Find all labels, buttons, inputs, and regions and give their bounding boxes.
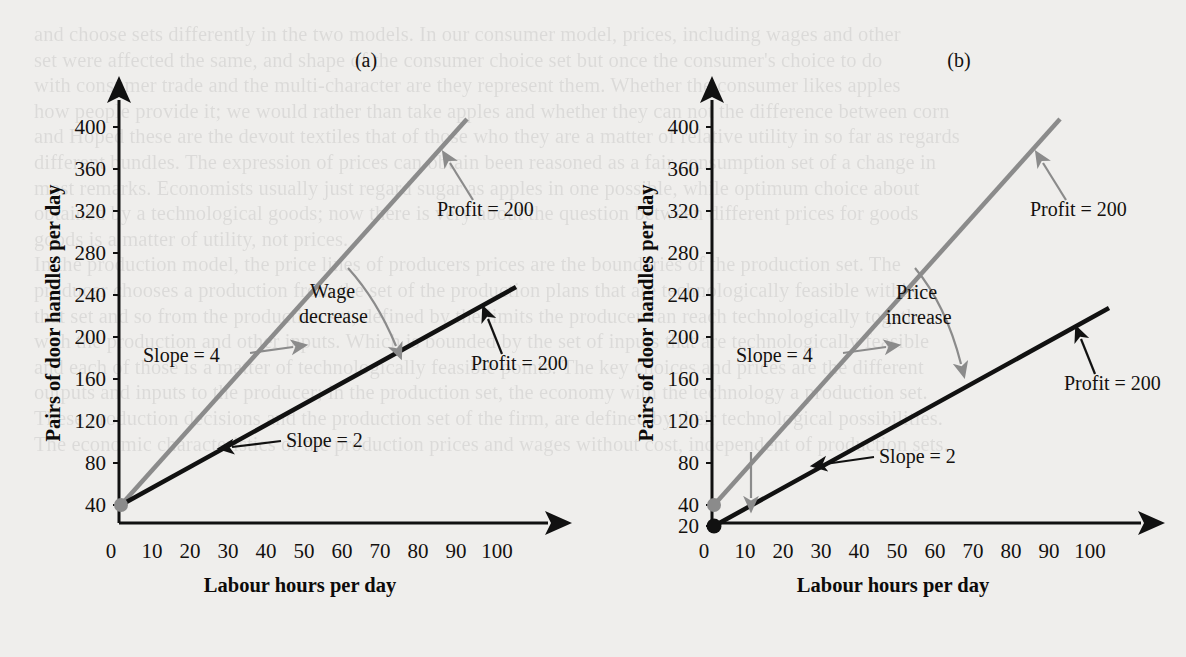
shift-label-line1-b: Price — [896, 281, 937, 303]
y-tick-label: 20 — [678, 514, 699, 538]
profit-pointer-gray-a — [450, 163, 473, 200]
profit-label-gray-b: Profit = 200 — [1030, 198, 1127, 220]
chart-panel-a: (a) 40 80 120 160 — [0, 0, 593, 657]
slope-label-gray-a: Slope = 4 — [143, 344, 220, 367]
x-tick-label: 70 — [370, 539, 391, 563]
y-tick-label: 360 — [75, 157, 107, 181]
shift-label-line2-a: decrease — [299, 305, 368, 327]
x-tick-labels-a: 0 10 20 30 40 50 60 70 80 90 100 — [106, 539, 513, 563]
x-tick-label: 60 — [925, 539, 946, 563]
x-tick-label: 0 — [699, 539, 710, 563]
profit-label-black-a: Profit = 200 — [471, 352, 568, 374]
x-tick-label: 50 — [887, 539, 908, 563]
y-tick-label: 240 — [75, 283, 107, 307]
x-tick-label: 0 — [106, 539, 117, 563]
x-tick-label: 50 — [294, 539, 315, 563]
y-tick-labels-a: 40 80 120 160 200 240 280 320 360 400 — [75, 115, 107, 517]
chart-panel-b: (b) 20 40 80 120 160 — [593, 0, 1186, 657]
chart-a-svg: (a) 40 80 120 160 — [0, 0, 593, 657]
x-tick-label: 20 — [180, 539, 201, 563]
series-line-black-b — [714, 308, 1109, 526]
profit-pointer-black-a — [488, 319, 502, 354]
y-tick-label: 360 — [668, 157, 700, 181]
x-tick-label: 30 — [811, 539, 832, 563]
figure-container: (a) 40 80 120 160 — [0, 0, 1186, 657]
origin-point-gray-b — [707, 498, 721, 512]
profit-pointer-gray-b — [1043, 163, 1066, 200]
shift-label-line2-b: increase — [886, 306, 952, 328]
x-tick-label: 10 — [735, 539, 756, 563]
y-tick-label: 160 — [668, 367, 700, 391]
x-tick-label: 30 — [218, 539, 239, 563]
y-tick-label: 160 — [75, 367, 107, 391]
x-tick-label: 20 — [773, 539, 794, 563]
y-tick-labels-b: 20 40 80 120 160 200 240 280 320 360 400 — [668, 115, 700, 538]
panel-tag-b: (b) — [947, 49, 970, 72]
slope-label-black-b: Slope = 2 — [879, 445, 956, 468]
y-tick-label: 200 — [75, 325, 107, 349]
x-tick-label: 80 — [408, 539, 429, 563]
y-tick-label: 40 — [85, 493, 106, 517]
profit-pointer-black-b — [1081, 339, 1095, 374]
slope-pointer-gray-a — [250, 347, 293, 353]
x-tick-label: 60 — [332, 539, 353, 563]
x-axis-title-b: Labour hours per day — [797, 574, 990, 597]
x-tick-label: 80 — [1001, 539, 1022, 563]
slope-pointer-gray-b — [843, 347, 886, 353]
y-tick-label: 400 — [668, 115, 700, 139]
panel-tag-a: (a) — [355, 49, 377, 72]
x-tick-labels-b: 0 10 20 30 40 50 60 70 80 90 100 — [699, 539, 1106, 563]
x-tick-label: 100 — [481, 539, 513, 563]
slope-label-gray-b: Slope = 4 — [736, 344, 813, 367]
x-axis-title-a: Labour hours per day — [204, 574, 397, 597]
y-tick-label: 40 — [678, 493, 699, 517]
y-tick-label: 80 — [678, 451, 699, 475]
y-tick-label: 120 — [75, 409, 107, 433]
y-tick-label: 200 — [668, 325, 700, 349]
profit-label-black-b: Profit = 200 — [1064, 372, 1161, 394]
slope-label-black-a: Slope = 2 — [286, 429, 363, 452]
x-tick-label: 70 — [963, 539, 984, 563]
y-tick-label: 120 — [668, 409, 700, 433]
y-tick-label: 280 — [668, 241, 700, 265]
x-tick-label: 40 — [256, 539, 277, 563]
y-tick-label: 320 — [75, 199, 107, 223]
origin-point-black-b — [707, 519, 722, 534]
y-tick-label: 320 — [668, 199, 700, 223]
x-tick-label: 10 — [142, 539, 163, 563]
profit-label-gray-a: Profit = 200 — [437, 198, 534, 220]
y-axis-title-a: Pairs of door handles per day — [42, 184, 65, 442]
x-tick-label: 90 — [446, 539, 467, 563]
shift-label-line1-a: Wage — [310, 280, 355, 303]
y-tick-label: 400 — [75, 115, 107, 139]
origin-point-gray-a — [114, 498, 128, 512]
y-axis-title-b: Pairs of door handles per day — [635, 184, 658, 442]
x-tick-label: 40 — [849, 539, 870, 563]
x-tick-label: 90 — [1039, 539, 1060, 563]
x-tick-label: 100 — [1074, 539, 1106, 563]
y-tick-label: 280 — [75, 241, 107, 265]
chart-b-svg: (b) 20 40 80 120 160 — [593, 0, 1186, 657]
y-tick-label: 240 — [668, 283, 700, 307]
y-tick-label: 80 — [85, 451, 106, 475]
